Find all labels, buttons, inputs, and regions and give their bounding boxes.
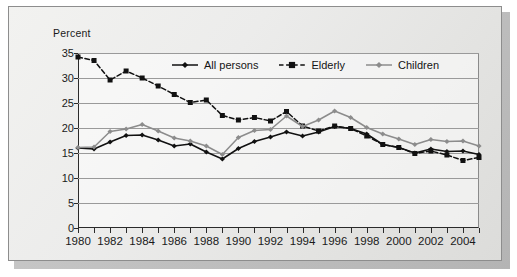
x-tick-mark-2001 [415,228,416,233]
data-point [380,131,385,136]
x-tick-label-1990: 1990 [226,235,252,247]
data-point [188,138,193,143]
series-line [78,111,479,155]
data-point [348,126,353,131]
data-point [380,142,385,147]
x-tick-mark-1998 [367,228,368,233]
x-tick-mark-1983 [126,228,127,233]
data-point [476,143,481,148]
data-point [188,100,193,105]
data-point [107,139,112,144]
x-tick-mark-1981 [94,228,95,233]
data-point [75,145,80,150]
data-point [460,158,465,163]
data-point [156,84,161,89]
x-tick-label-1980: 1980 [65,235,91,247]
legend-entry-children[interactable]: Children [365,59,439,71]
x-tick-mark-2000 [399,228,400,233]
x-tick-mark-1991 [254,228,255,233]
y-tick-label-25: 25 [62,97,74,109]
data-point [428,137,433,142]
data-point [108,78,113,83]
data-point [460,138,465,143]
x-tick-label-2002: 2002 [418,235,444,247]
data-point [252,128,257,133]
data-point [444,139,449,144]
x-tick-label-1982: 1982 [97,235,123,247]
x-tick-mark-1985 [158,228,159,233]
x-tick-label-1986: 1986 [161,235,187,247]
x-tick-mark-1984 [142,228,143,233]
data-point [140,132,145,137]
x-tick-mark-1993 [287,228,288,233]
data-point [252,115,257,120]
data-point [172,92,177,97]
legend-label: All persons [204,59,258,71]
data-point [156,128,161,133]
x-tick-mark-1988 [206,228,207,233]
data-point [396,145,401,150]
x-tick-mark-2005 [479,228,480,233]
x-tick-mark-1995 [319,228,320,233]
data-point [140,76,145,81]
x-tick-label-2004: 2004 [450,235,476,247]
x-tick-mark-1980 [78,228,79,233]
data-point [204,143,209,148]
x-axis-tick-labels: 1980198219841986198819901992199419961998… [78,235,479,253]
x-tick-label-1988: 1988 [194,235,220,247]
series-layer [78,53,479,228]
data-point [172,143,177,148]
data-point [428,149,433,154]
legend-swatch-square-icon [278,59,306,71]
x-tick-mark-1987 [190,228,191,233]
x-tick-mark-1990 [238,228,239,233]
x-tick-mark-1996 [335,228,336,233]
data-point [172,135,177,140]
x-tick-label-1994: 1994 [290,235,316,247]
x-tick-mark-1989 [222,228,223,233]
legend-label: Children [398,59,439,71]
data-point [252,139,257,144]
legend-swatch-diamond-icon [171,59,199,71]
x-tick-mark-1994 [303,228,304,233]
x-tick-mark-2003 [447,228,448,233]
data-point [300,133,305,138]
data-point [332,124,337,129]
x-tick-label-1984: 1984 [129,235,155,247]
data-point [124,133,129,138]
x-tick-mark-1999 [383,228,384,233]
x-tick-mark-2004 [463,228,464,233]
y-tick-label-30: 30 [62,72,74,84]
data-point [156,137,161,142]
data-point [204,149,209,154]
data-point [76,55,81,60]
data-point [268,134,273,139]
plot-area [78,53,479,228]
x-tick-mark-1986 [174,228,175,233]
data-point [220,113,225,118]
chart-legend: All personsElderlyChildren [167,56,443,74]
x-tick-mark-1992 [270,228,271,233]
data-point [477,155,482,160]
data-point [236,118,241,123]
x-tick-mark-1982 [110,228,111,233]
x-tick-label-1998: 1998 [354,235,380,247]
figure-root: Percent 05101520253035 19801982198419861… [0,0,517,277]
data-point [284,109,289,114]
y-tick-label-15: 15 [62,147,74,159]
data-point [364,134,369,139]
x-tick-mark-1997 [351,228,352,233]
x-tick-label-1992: 1992 [258,235,284,247]
legend-entry-all-persons[interactable]: All persons [171,59,258,71]
data-point [412,151,417,156]
data-point [396,136,401,141]
y-tick-label-10: 10 [62,172,74,184]
y-axis-tick-labels: 05101520253035 [49,53,74,228]
data-point [204,98,209,103]
legend-swatch-diamond-icon [365,59,393,71]
data-point [268,119,273,124]
legend-entry-elderly[interactable]: Elderly [278,59,345,71]
legend-label: Elderly [311,59,345,71]
data-point [124,126,129,131]
x-tick-label-1996: 1996 [322,235,348,247]
